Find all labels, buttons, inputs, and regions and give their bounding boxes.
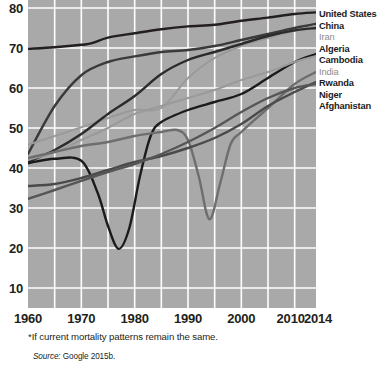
legend-item-cambodia[interactable]: Cambodia — [319, 55, 378, 67]
legend-item-china[interactable]: China — [319, 21, 378, 33]
x-axis-tick-2010: 2010 — [277, 312, 305, 325]
plot-svg — [28, 0, 316, 308]
x-axis-tick-1960: 1960 — [14, 312, 42, 325]
plot-area — [28, 0, 316, 308]
x-axis-tick-1980: 1980 — [121, 312, 149, 325]
x-axis-tick-2000: 2000 — [227, 312, 255, 325]
legend-item-india[interactable]: India — [319, 67, 378, 79]
legend-item-algeria[interactable]: Algeria — [319, 44, 378, 56]
series-line-united-states — [28, 12, 316, 48]
source-text: Google 2015b. — [63, 352, 115, 361]
y-axis-tick-10: 10 — [9, 282, 23, 295]
y-axis-tick-60: 60 — [9, 82, 23, 95]
chart-footnote: *If current mortality patterns remain th… — [28, 331, 218, 342]
chart-legend: United StatesChinaIranAlgeriaCambodiaInd… — [319, 9, 378, 113]
legend-item-iran[interactable]: Iran — [319, 32, 378, 44]
y-axis-tick-50: 50 — [9, 122, 23, 135]
chart-source: Source: Google 2015b. — [33, 352, 115, 361]
legend-item-united-states[interactable]: United States — [319, 9, 378, 21]
x-axis-tick-1970: 1970 — [67, 312, 95, 325]
legend-item-niger[interactable]: Niger — [319, 90, 378, 102]
legend-item-afghanistan[interactable]: Afghanistan — [319, 101, 378, 113]
series-line-china — [28, 24, 316, 154]
y-axis-tick-30: 30 — [9, 202, 23, 215]
series-line-india — [28, 56, 316, 160]
legend-item-rwanda[interactable]: Rwanda — [319, 78, 378, 90]
x-axis-tick-2014: 2014 — [304, 312, 332, 325]
y-axis: 1020304050607080 — [0, 0, 26, 308]
y-axis-tick-70: 70 — [9, 42, 23, 55]
x-axis-tick-1990: 1990 — [174, 312, 202, 325]
source-label: Source: — [33, 352, 61, 361]
life-expectancy-line-chart: 1020304050607080 19601970198019902000201… — [0, 0, 378, 374]
y-axis-tick-40: 40 — [9, 162, 23, 175]
y-axis-tick-80: 80 — [9, 2, 23, 15]
x-axis: 1960197019801990200020102014 — [0, 310, 378, 332]
y-axis-tick-20: 20 — [9, 242, 23, 255]
